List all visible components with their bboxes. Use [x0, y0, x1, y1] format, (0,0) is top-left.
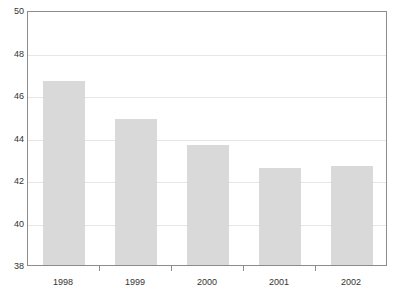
- y-axis-tick-label: 46: [2, 92, 24, 101]
- x-axis-tick-label: 2000: [171, 277, 243, 287]
- plot-area: [27, 11, 387, 266]
- x-axis-tick-label: 2001: [243, 277, 315, 287]
- bar-chart: 38404244464850 19981999200020012002: [0, 0, 400, 297]
- x-axis: 19981999200020012002: [27, 266, 387, 297]
- y-axis-tick-label: 48: [2, 50, 24, 59]
- x-axis-tick-label: 1998: [27, 277, 99, 287]
- y-axis-tick-label: 40: [2, 220, 24, 229]
- x-axis-tick-label: 1999: [99, 277, 171, 287]
- bars-group: [28, 12, 386, 265]
- y-axis: 38404244464850: [0, 0, 24, 297]
- x-axis-tick: [315, 266, 316, 271]
- x-axis-tick-label: 2002: [315, 277, 387, 287]
- bar-2001[interactable]: [259, 168, 301, 265]
- bar-2002[interactable]: [331, 166, 373, 265]
- x-axis-tick: [99, 266, 100, 271]
- clipped-title-strip: [0, 0, 400, 6]
- bar-2000[interactable]: [187, 145, 229, 265]
- y-axis-tick-label: 50: [2, 7, 24, 16]
- bar-1998[interactable]: [43, 81, 85, 265]
- x-axis-tick: [171, 266, 172, 271]
- y-axis-tick-label: 42: [2, 177, 24, 186]
- bar-1999[interactable]: [115, 119, 157, 265]
- y-axis-tick-label: 44: [2, 135, 24, 144]
- x-axis-tick: [243, 266, 244, 271]
- y-axis-tick-label: 38: [2, 262, 24, 271]
